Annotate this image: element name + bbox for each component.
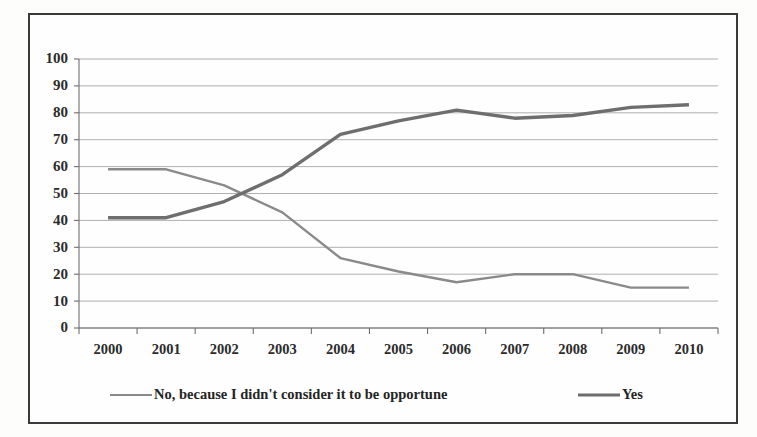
x-tick-label-2001: 2001: [152, 341, 181, 357]
y-tick-label-40: 40: [53, 212, 68, 228]
series-line-yes: [108, 105, 689, 218]
y-tick-label-80: 80: [53, 104, 68, 120]
y-tick-label-10: 10: [53, 293, 68, 309]
x-tick-label-2008: 2008: [558, 341, 587, 357]
y-tick-label-50: 50: [53, 185, 68, 201]
plot-wrapper: 0102030405060708090100 20002001200220032…: [0, 0, 757, 437]
x-tick-label-2006: 2006: [442, 341, 471, 357]
series-line-no: [108, 169, 689, 287]
y-tick-label-90: 90: [53, 77, 68, 93]
y-axis: [74, 59, 79, 328]
y-tick-label-30: 30: [53, 239, 68, 255]
legend-label-yes: Yes: [622, 386, 643, 402]
line-chart: 0102030405060708090100 20002001200220032…: [0, 0, 757, 437]
x-tick-label-2010: 2010: [674, 341, 703, 357]
y-tick-label-60: 60: [53, 158, 68, 174]
x-tick-label-2002: 2002: [210, 341, 239, 357]
x-tick-label-2004: 2004: [326, 341, 355, 357]
x-tick-label-2009: 2009: [616, 341, 645, 357]
y-tick-labels: 0102030405060708090100: [46, 50, 69, 335]
figure-container: 0102030405060708090100 20002001200220032…: [0, 0, 757, 437]
x-tick-label-2005: 2005: [384, 341, 413, 357]
y-tick-label-20: 20: [53, 266, 68, 282]
chart-legend: No, because I didn't consider it to be o…: [110, 386, 643, 402]
legend-label-no: No, because I didn't consider it to be o…: [154, 386, 448, 402]
x-tick-labels: 2000200120022003200420052006200720082009…: [94, 341, 704, 357]
y-tick-label-70: 70: [53, 131, 68, 147]
data-series: [108, 105, 689, 288]
gridlines: [79, 59, 718, 328]
y-tick-label-0: 0: [61, 319, 69, 335]
x-tick-label-2007: 2007: [500, 341, 529, 357]
x-tick-label-2003: 2003: [268, 341, 297, 357]
y-tick-label-100: 100: [46, 50, 69, 66]
x-tick-label-2000: 2000: [94, 341, 123, 357]
x-axis: [79, 328, 718, 334]
